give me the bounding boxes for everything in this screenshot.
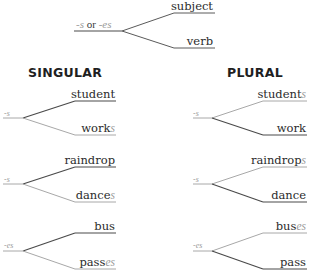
verb-word: pass [280, 255, 306, 269]
suffix-label: -es [4, 241, 13, 250]
singular-item-3: -es bus passes [3, 219, 116, 269]
subject-word: raindrop [64, 153, 115, 167]
legend-diagram: -s or -es subject verb [74, 0, 215, 48]
suffix-label: -s [4, 109, 10, 118]
legend-verb-label: verb [186, 34, 213, 48]
singular-heading: SINGULAR [28, 65, 102, 80]
singular-item-2: -s raindrop dances [3, 153, 116, 202]
legend-suffix-label: -s or -es [76, 18, 111, 30]
verb-word: works [81, 121, 115, 135]
plural-item-3: -es buses pass [193, 219, 307, 269]
suffix-label: -s [193, 175, 199, 184]
subject-verb-agreement-diagram: -s or -es subject verb SINGULAR PLURAL -… [0, 0, 311, 279]
verb-word: passes [79, 255, 115, 269]
suffix-label: -es [193, 241, 202, 250]
suffix-label: -s [4, 175, 10, 184]
verb-word: work [277, 121, 307, 135]
subject-word: buses [276, 219, 307, 233]
plural-item-1: -s students work [193, 87, 307, 135]
plural-item-2: -s raindrops dance [193, 153, 307, 202]
subject-word: raindrops [251, 153, 307, 167]
verb-word: dances [76, 188, 116, 202]
suffix-label: -s [193, 109, 199, 118]
subject-word: bus [94, 219, 115, 233]
subject-word: student [71, 87, 116, 101]
verb-word: dance [271, 188, 306, 202]
singular-item-1: -s student works [3, 87, 116, 135]
plural-heading: PLURAL [227, 65, 283, 80]
subject-word: students [257, 87, 306, 101]
legend-subject-label: subject [171, 0, 213, 13]
